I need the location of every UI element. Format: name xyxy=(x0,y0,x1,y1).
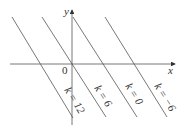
line-label-k6: k = 6 xyxy=(92,83,115,110)
line-label-km6: k = −6 xyxy=(152,81,179,114)
line-label-k12: k = 12 xyxy=(62,85,88,116)
origin-label: 0 xyxy=(62,64,68,76)
x-axis-label: x xyxy=(167,64,173,76)
y-axis-label: y xyxy=(63,5,69,17)
level-lines: k = 12k = 6k = 0k = −6 xyxy=(12,17,179,118)
line-label-k0: k = 0 xyxy=(123,81,146,108)
diagram-canvas: y x 0 k = 12k = 6k = 0k = −6 xyxy=(0,0,181,134)
